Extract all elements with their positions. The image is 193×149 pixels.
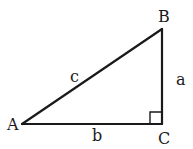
right-angle-marker-icon [150,112,162,124]
side-label-c: c [70,67,79,86]
vertex-label-c: C [158,129,170,148]
vertex-label-a: A [6,115,19,134]
side-c-hypotenuse [22,29,162,124]
vertex-label-b: B [158,7,170,26]
side-label-a: a [176,70,186,89]
right-triangle-diagram: A B C a b c [0,0,193,149]
side-label-b: b [92,126,102,145]
